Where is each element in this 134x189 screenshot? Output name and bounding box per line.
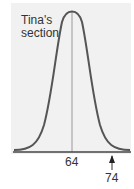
mean-tick-label: 64 — [65, 156, 78, 169]
chart-title-line2: section — [21, 27, 59, 40]
marker-label: 74 — [105, 172, 118, 185]
marker-arrow-icon — [109, 155, 115, 163]
